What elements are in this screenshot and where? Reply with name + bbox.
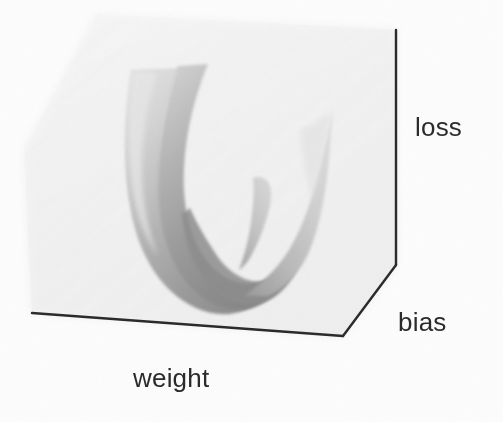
- loss-surface-figure: loss bias weight: [0, 0, 503, 422]
- weight-axis-label: weight: [133, 363, 209, 394]
- surface-plot-canvas: [0, 0, 503, 422]
- loss-axis-label: loss: [415, 112, 462, 143]
- bias-axis-label: bias: [398, 307, 447, 338]
